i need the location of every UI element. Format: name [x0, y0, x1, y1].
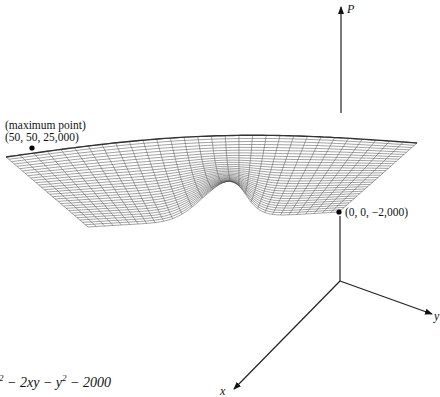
formula-tail: − 2000: [67, 375, 111, 390]
y-axis-label: y: [434, 309, 439, 324]
y-axis: [340, 281, 432, 314]
x-axis: [234, 281, 340, 389]
minimum-corner-dot: [336, 209, 341, 214]
x-axis-label: x: [220, 384, 225, 397]
profit-formula: 2 − 2xy − y2 − 2000: [0, 373, 111, 391]
formula-mid: − 2xy − y: [4, 375, 63, 390]
corner-point-coords: (0, 0, −2,000): [345, 206, 408, 219]
surface-plot: [0, 0, 440, 397]
maximum-point-dot: [29, 145, 34, 150]
p-axis-label: P: [347, 2, 354, 17]
maximum-point-coords: (50, 50, 25,000): [5, 131, 79, 144]
